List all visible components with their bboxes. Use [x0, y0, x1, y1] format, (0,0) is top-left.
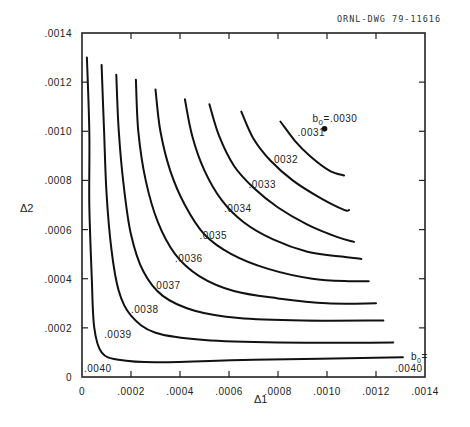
b0-point-label: b0=.0030	[313, 113, 358, 127]
plot-frame	[82, 33, 425, 377]
contour-chart: ORNL-DWG 79-11616 0.0002.0004.0006.0008.…	[0, 0, 470, 427]
contour-label: .0034	[224, 203, 252, 214]
corner-label-bottom-left: .0040	[84, 363, 112, 374]
y-tick-label: .0006	[44, 225, 72, 236]
contour-label: .0032	[271, 154, 299, 165]
contour-label: .0037	[153, 280, 181, 291]
x-tick-label: .0006	[215, 386, 243, 397]
x-tick-label: .0010	[313, 386, 341, 397]
y-tick-label: .0004	[44, 274, 72, 285]
annotations: b0=.0030.0040b0=.0040	[84, 113, 428, 374]
drawing-id: ORNL-DWG 79-11616	[337, 14, 441, 24]
plot-area	[82, 33, 425, 377]
y-tick-label: .0002	[44, 323, 72, 334]
contour-label: .0039	[104, 329, 132, 340]
contour-label: .0035	[200, 230, 228, 241]
contour-label: .0038	[131, 304, 159, 315]
y-tick-label: .0008	[44, 175, 72, 186]
x-tick-label: .0008	[264, 386, 292, 397]
contour-label: .0036	[175, 253, 203, 264]
contour-line	[209, 104, 354, 242]
x-tick-label: .0014	[411, 386, 439, 397]
corner-label-bottom-right: .0040	[395, 363, 423, 374]
y-tick-label: .0012	[44, 77, 72, 88]
y-tick-label: 0	[66, 372, 72, 383]
y-tick-label: .0014	[44, 28, 72, 39]
x-tick-label: .0004	[166, 386, 194, 397]
x-tick-label: .0002	[117, 386, 145, 397]
b0-point-marker	[322, 126, 328, 132]
y-axis-label: Δ2	[20, 202, 33, 214]
contour-labels: .0031.0032.0033.0034.0035.0036.0037.0038…	[104, 127, 325, 339]
x-tick-label: .0012	[362, 386, 390, 397]
x-axis-label: Δ1	[254, 393, 267, 405]
contour-label: .0033	[249, 179, 277, 190]
x-tick-label: 0	[79, 386, 85, 397]
contour-label: .0031	[298, 127, 326, 138]
y-tick-label: .0010	[44, 126, 72, 137]
